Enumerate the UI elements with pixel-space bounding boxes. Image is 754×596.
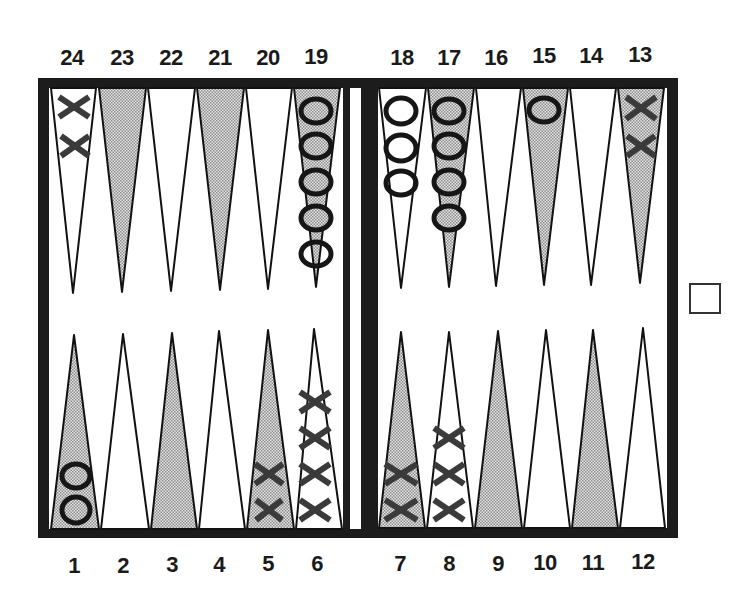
checker-o[interactable] bbox=[434, 206, 464, 230]
checker-o[interactable] bbox=[434, 170, 464, 194]
checker-o[interactable] bbox=[301, 134, 331, 158]
checker-o[interactable] bbox=[62, 464, 90, 488]
checker-o[interactable] bbox=[529, 98, 559, 122]
backgammon-board bbox=[0, 0, 754, 596]
checker-o[interactable] bbox=[301, 170, 331, 194]
point-label-10: 10 bbox=[533, 552, 556, 574]
checker-o[interactable] bbox=[62, 497, 90, 523]
doubling-cube[interactable] bbox=[690, 284, 720, 313]
checker-o[interactable] bbox=[434, 99, 464, 123]
point-label-5: 5 bbox=[262, 553, 274, 575]
point-label-7: 7 bbox=[394, 553, 406, 575]
checker-o[interactable] bbox=[301, 206, 331, 230]
point-label-6: 6 bbox=[311, 553, 323, 575]
point-label-12: 12 bbox=[631, 551, 654, 573]
point-label-3: 3 bbox=[166, 554, 178, 576]
point-label-4: 4 bbox=[213, 554, 225, 576]
bar[interactable] bbox=[350, 88, 361, 529]
point-label-11: 11 bbox=[582, 552, 604, 574]
point-label-2: 2 bbox=[117, 555, 129, 577]
point-label-9: 9 bbox=[492, 553, 504, 575]
checker-o[interactable] bbox=[434, 134, 464, 158]
point-label-1: 1 bbox=[68, 555, 80, 577]
right-half bbox=[378, 88, 667, 528]
point-label-8: 8 bbox=[443, 553, 455, 575]
left-half bbox=[49, 88, 343, 529]
checker-o[interactable] bbox=[301, 99, 331, 123]
